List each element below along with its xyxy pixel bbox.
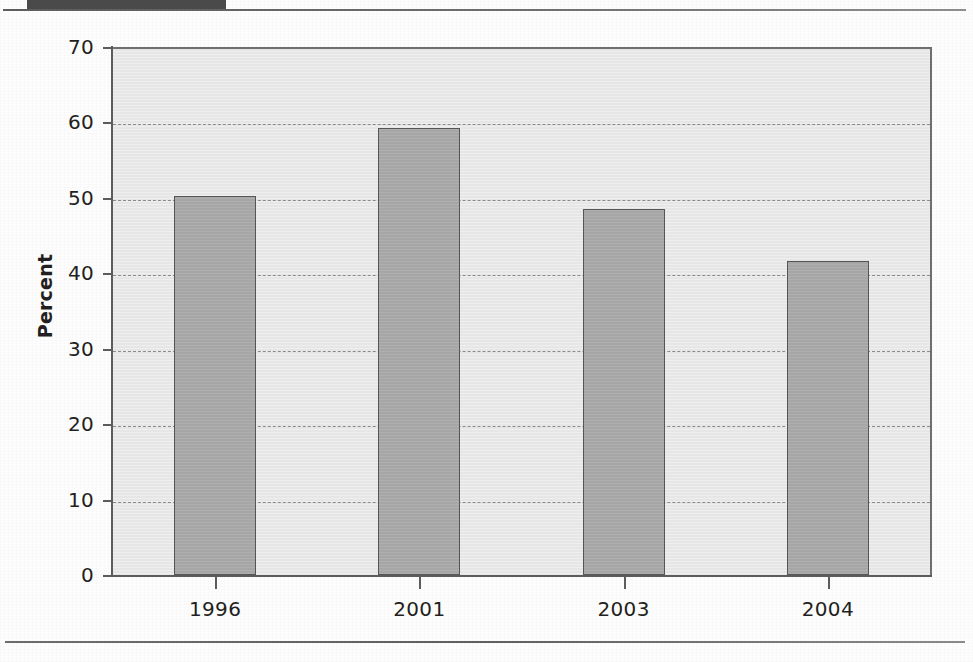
x-tick-mark-2001 — [419, 577, 421, 589]
y-tick-mark-50 — [103, 198, 113, 200]
bar-chart: 010203040506070 1996200120032004 Percent — [0, 0, 973, 662]
y-tick-label-70: 70 — [34, 35, 94, 59]
y-tick-mark-30 — [103, 349, 113, 351]
x-tick-mark-2004 — [828, 577, 830, 589]
y-tick-mark-20 — [103, 424, 113, 426]
x-tick-label-2003: 2003 — [554, 597, 694, 621]
y-tick-mark-10 — [103, 500, 113, 502]
x-tick-label-1996: 1996 — [145, 597, 285, 621]
bar-2003 — [583, 209, 665, 575]
y-tick-label-10: 10 — [34, 488, 94, 512]
y-tick-mark-0 — [103, 575, 113, 577]
y-tick-label-50: 50 — [34, 186, 94, 210]
x-tick-mark-2003 — [624, 577, 626, 589]
x-tick-label-2004: 2004 — [758, 597, 898, 621]
y-tick-mark-60 — [103, 122, 113, 124]
bar-1996 — [174, 196, 256, 575]
x-tick-mark-1996 — [215, 577, 217, 589]
y-tick-label-20: 20 — [34, 412, 94, 436]
gridline-60 — [113, 124, 930, 125]
y-tick-label-60: 60 — [34, 110, 94, 134]
y-axis-line — [111, 46, 113, 577]
x-axis-line — [111, 575, 932, 577]
bar-2001 — [378, 128, 460, 575]
y-tick-mark-40 — [103, 273, 113, 275]
y-axis-label: Percent — [34, 236, 56, 356]
bar-2004 — [787, 261, 869, 575]
footer-divider-rule — [5, 641, 965, 643]
y-tick-mark-70 — [103, 47, 113, 49]
y-tick-label-0: 0 — [34, 563, 94, 587]
x-tick-label-2001: 2001 — [349, 597, 489, 621]
